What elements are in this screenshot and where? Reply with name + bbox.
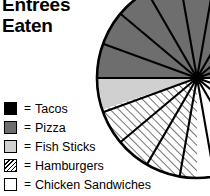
chart-title-line1: Entrees bbox=[2, 0, 70, 15]
pie-slice-pizza bbox=[97, 0, 210, 78]
chart-figure: EntreesEaten = Tacos = Pizza = Fish Stic… bbox=[0, 0, 210, 196]
legend-swatch-fish-sticks bbox=[4, 140, 17, 153]
legend-label-pizza: Pizza bbox=[35, 121, 66, 135]
legend-separator: = bbox=[24, 159, 31, 172]
pie-center-hub bbox=[194, 75, 201, 82]
legend-item-pizza: = Pizza bbox=[0, 118, 151, 137]
legend-separator: = bbox=[24, 140, 31, 153]
legend-label-hamburgers: Hamburgers bbox=[35, 159, 104, 173]
legend-label-chicken-sandwiches: Chicken Sandwiches bbox=[35, 178, 151, 192]
legend-item-chicken-sandwiches: = Chicken Sandwiches bbox=[0, 175, 151, 194]
legend-item-hamburgers: = Hamburgers bbox=[0, 156, 151, 175]
legend-item-tacos: = Tacos bbox=[0, 99, 151, 118]
legend-item-fish-sticks: = Fish Sticks bbox=[0, 137, 151, 156]
legend-separator: = bbox=[24, 121, 31, 134]
chart-legend: = Tacos = Pizza = Fish Sticks = Hamburge… bbox=[0, 99, 151, 194]
chart-title: EntreesEaten bbox=[2, 0, 70, 36]
legend-swatch-chicken-sandwiches bbox=[4, 178, 17, 191]
legend-label-tacos: Tacos bbox=[35, 102, 68, 116]
legend-swatch-tacos bbox=[4, 102, 17, 115]
legend-separator: = bbox=[24, 178, 31, 191]
chart-title-line2: Eaten bbox=[2, 15, 53, 36]
legend-swatch-hamburgers bbox=[4, 159, 17, 172]
legend-swatch-pizza bbox=[4, 121, 17, 134]
legend-separator: = bbox=[24, 102, 31, 115]
legend-label-fish-sticks: Fish Sticks bbox=[35, 140, 95, 154]
